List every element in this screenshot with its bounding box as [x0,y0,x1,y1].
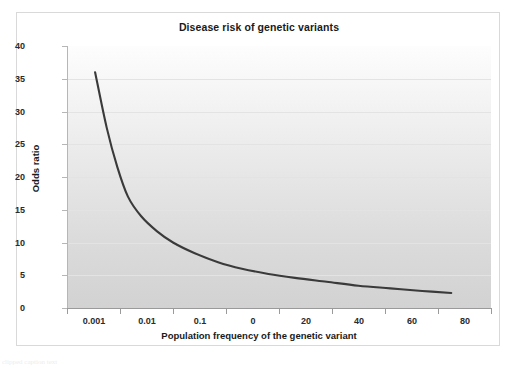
x-tick-label: 20 [276,316,336,326]
x-tick-label: 0.1 [170,316,230,326]
y-tick-label: 40 [0,41,25,51]
y-tick-label: 35 [0,74,25,84]
y-tick-label: 25 [0,139,25,149]
y-tick-label: 0 [0,303,25,313]
x-tick-label: 0 [223,316,283,326]
y-tick-label: 15 [0,205,25,215]
x-tick-label: 0.01 [117,316,177,326]
x-tick-mark [67,309,68,314]
figure-container: Disease risk of genetic variants 40 35 3… [0,0,516,369]
x-tick-mark [279,309,280,314]
y-tick-label: 20 [0,172,25,182]
x-tick-label: 0.001 [64,316,124,326]
x-tick-mark [491,309,492,314]
x-tick-mark [332,309,333,314]
chart-card: Disease risk of genetic variants 40 35 3… [16,12,500,346]
x-tick-mark [120,309,121,314]
y-axis-title: Odds ratio [30,129,41,209]
x-tick-label: 40 [329,316,389,326]
x-tick-mark [173,309,174,314]
x-tick-mark [385,309,386,314]
x-tick-label: 80 [435,316,495,326]
data-curve [67,46,491,308]
y-tick-label: 10 [0,238,25,248]
clipped-caption: clipped caption text [2,358,332,367]
y-tick-label: 5 [0,270,25,280]
x-axis-title: Population frequency of the genetic vari… [17,330,501,341]
y-tick-label: 30 [0,107,25,117]
chart-title: Disease risk of genetic variants [17,21,501,33]
curve-path [95,72,451,293]
x-tick-mark [438,309,439,314]
x-tick-mark [226,309,227,314]
x-tick-label: 60 [382,316,442,326]
